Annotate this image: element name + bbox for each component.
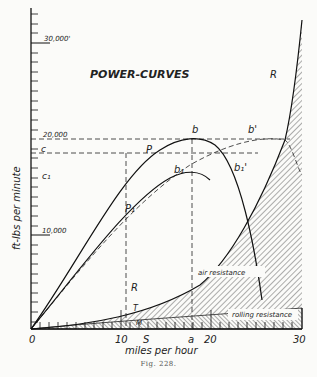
y-axis-label: ft-lbs per minute xyxy=(11,166,22,250)
label-M: M xyxy=(136,319,142,327)
label-b1: b₁ xyxy=(174,164,184,175)
figure-caption: Fig. 228. xyxy=(0,360,317,368)
label-b: b xyxy=(192,124,198,135)
x-tick-30: 30 xyxy=(293,334,306,345)
label-rolling-resistance: rolling resistance xyxy=(232,311,292,319)
x-tick-0: 0 xyxy=(29,334,35,345)
label-R-upper: R xyxy=(270,69,277,80)
label-R-lower: R xyxy=(131,282,138,293)
x-mark-S: S xyxy=(143,334,150,345)
y-tick-20000: 20,000 xyxy=(43,131,68,139)
x-axis-label: miles per hour xyxy=(125,345,198,356)
chart-title: POWER-CURVES xyxy=(90,68,190,81)
y-tick-10000: 10,000 xyxy=(42,227,67,235)
x-tick-20: 20 xyxy=(204,334,217,345)
air-resistance-area xyxy=(31,20,302,329)
power-curves-chart: 30,000' 20,000 10,000 c c₁ POWER-CURVES … xyxy=(0,0,317,377)
x-tick-10: 10 xyxy=(115,334,128,345)
y-mark-c: c xyxy=(41,144,46,154)
y-mark-c1: c₁ xyxy=(42,171,51,181)
label-air-resistance: air resistance xyxy=(198,269,245,277)
label-P: P xyxy=(146,144,153,155)
x-mark-a: a xyxy=(188,334,194,345)
label-b1-prime: b₁' xyxy=(234,162,247,173)
y-tick-30000: 30,000' xyxy=(44,35,70,43)
label-P1: P₁ xyxy=(125,203,135,214)
label-b-prime: b' xyxy=(248,124,257,135)
